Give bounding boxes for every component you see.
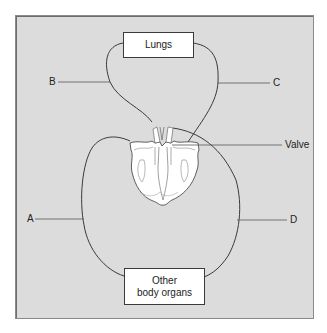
heart-icon [130,127,199,205]
label-d: D [290,215,297,225]
label-valve: Valve [285,140,309,150]
other-body-organs-box: Other body organs [124,268,205,305]
label-c: C [273,78,280,88]
lungs-box: Lungs [123,32,194,58]
label-b: B [49,77,56,87]
lungs-label: Lungs [145,39,172,51]
label-a: A [27,214,34,224]
organs-label-line2: body organs [137,287,192,299]
organs-label-line1: Other [152,275,177,287]
vessel-a [82,137,130,276]
